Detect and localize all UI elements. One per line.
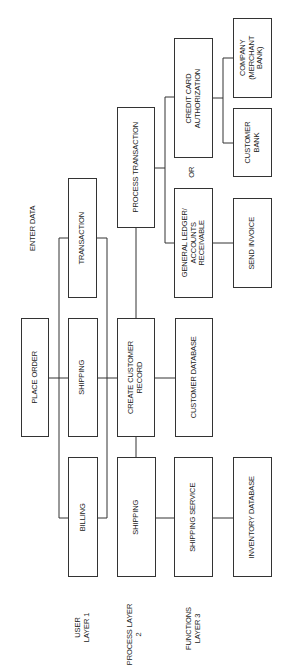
general-ledger-text: GENERAL LEDGER/ ACCOUNTS RECEIVABLE: [181, 208, 207, 277]
or-label: OR: [185, 164, 201, 180]
shipping-box-layer1: SHIPPING: [68, 318, 98, 437]
layer2-label: PROCESS LAYER 2: [122, 605, 148, 663]
layer1-label-text: USER LAYER 1: [75, 612, 92, 642]
inventory-database-box: INVENTORY DATABASE: [233, 457, 272, 577]
layer3-label-text: FUNCTIONS LAYER 3: [185, 607, 202, 650]
transaction-box: TRANSACTION: [68, 178, 97, 298]
create-customer-record-text: CREATE CUSTOMER RECORD: [128, 341, 145, 414]
customer-bank-text: CUSTOMER BANK: [244, 122, 261, 164]
shipping-box-layer2: SHIPPING: [117, 457, 156, 577]
enter-data-label: ENTER DATA: [24, 203, 44, 253]
general-ledger-box: GENERAL LEDGER/ ACCOUNTS RECEIVABLE: [174, 188, 213, 298]
company-merchant-bank-text: COMPANY (MERCHANT BANK): [240, 36, 266, 80]
layer3-label: FUNCTIONS LAYER 3: [180, 605, 206, 651]
place-order-box: PLACE ORDER: [21, 318, 49, 437]
company-merchant-bank-box: COMPANY (MERCHANT BANK): [233, 18, 272, 98]
shipping-service-box: SHIPPING SERVICE: [174, 457, 213, 577]
process-transaction-box: PROCESS TRANSACTION: [117, 107, 155, 228]
layer2-label-text: PROCESS LAYER 2: [127, 603, 144, 665]
send-invoice-box: SEND INVOICE: [233, 198, 272, 288]
credit-card-authorization-text: CREDIT CARD AUTHORIZATION: [185, 68, 202, 127]
customer-database-box: CUSTOMER DATABASE: [175, 318, 213, 437]
billing-box: BILLING: [68, 457, 98, 577]
customer-bank-box: CUSTOMER BANK: [233, 108, 272, 177]
layer1-label: USER LAYER 1: [70, 605, 96, 649]
credit-card-authorization-box: CREDIT CARD AUTHORIZATION: [174, 38, 213, 158]
layered-architecture-diagram: ENTER DATA OR USER LAYER 1 PROCESS LAYER…: [0, 0, 289, 665]
create-customer-record-box: CREATE CUSTOMER RECORD: [117, 318, 155, 437]
